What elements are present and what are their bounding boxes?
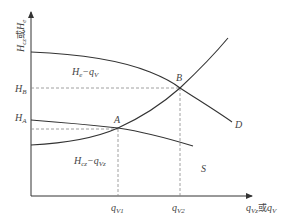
y-axis-label: Hcz或He bbox=[15, 20, 28, 53]
system-curve-label: Hcz−qVz bbox=[73, 155, 106, 168]
point-label-a: A bbox=[113, 114, 121, 125]
y-tick-hb: HB bbox=[14, 83, 27, 96]
pump-curve-label: He−qV bbox=[71, 66, 99, 79]
point-label-b: B bbox=[176, 72, 182, 83]
x-tick-qv2: qV2 bbox=[172, 202, 185, 215]
diagram-canvas: Hcz或He qVz或qV HB HA qV1 qV2 A B D S He−q… bbox=[0, 0, 286, 219]
y-tick-ha: HA bbox=[14, 112, 27, 125]
svg-text:Hcz或He: Hcz或He bbox=[15, 20, 28, 53]
x-tick-qv1: qV1 bbox=[111, 202, 124, 215]
point-label-s: S bbox=[201, 163, 206, 174]
lower-curve-hcz-qvz bbox=[31, 120, 193, 146]
point-label-d: D bbox=[234, 119, 243, 130]
x-axis-label: qVz或qV bbox=[246, 202, 277, 215]
diagram-pump-system-curves: Hcz或He qVz或qV HB HA qV1 qV2 A B D S He−q… bbox=[0, 0, 286, 219]
pump-curve-he-qv bbox=[31, 52, 232, 122]
